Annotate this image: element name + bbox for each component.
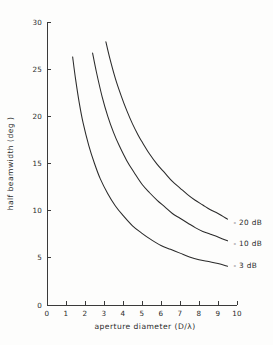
x-tick-label: 9: [216, 309, 221, 318]
y-axis-title: half beamwidth (deg ): [6, 117, 15, 211]
y-tick-label: 10: [32, 206, 42, 215]
x-tick-label: 10: [232, 309, 242, 318]
x-tick-label: 1: [64, 309, 69, 318]
x-tick-label: 2: [83, 309, 88, 318]
y-tick-label: 5: [37, 253, 42, 262]
axes-group: [47, 22, 237, 305]
y-axis-ticks: 051015202530: [32, 18, 51, 310]
series-curve: [93, 53, 228, 241]
y-tick-label: 20: [32, 112, 42, 121]
beamwidth-chart: 012345678910 051015202530 - 20 dB- 10 dB…: [0, 0, 273, 345]
y-tick-label: 15: [32, 159, 42, 168]
x-tick-label: 5: [140, 309, 145, 318]
y-tick-label: 30: [32, 18, 42, 27]
series-curve: [73, 57, 228, 266]
x-tick-label: 6: [159, 309, 164, 318]
series-group: [73, 42, 228, 267]
x-axis-ticks: 012345678910: [45, 301, 242, 318]
y-tick-label: 25: [32, 65, 42, 74]
series-labels-group: - 20 dB- 10 dB- 3 dB: [233, 218, 262, 270]
x-tick-label: 4: [121, 309, 126, 318]
y-tick-label: 0: [37, 301, 42, 310]
x-tick-label: 8: [197, 309, 202, 318]
series-curve: [106, 42, 228, 219]
x-axis-title: aperture diameter (D/λ): [94, 322, 195, 331]
series-label: - 20 dB: [233, 218, 262, 227]
x-tick-label: 3: [102, 309, 107, 318]
series-label: - 3 dB: [233, 261, 257, 270]
chart-page: 012345678910 051015202530 - 20 dB- 10 dB…: [0, 0, 273, 345]
series-label: - 10 dB: [233, 239, 262, 248]
x-tick-label: 0: [45, 309, 50, 318]
x-tick-label: 7: [178, 309, 183, 318]
